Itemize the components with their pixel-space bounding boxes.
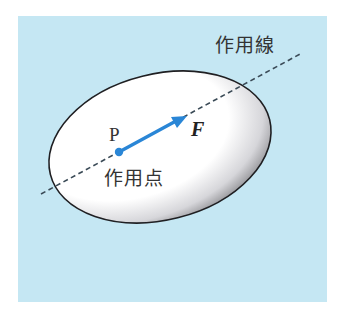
label-point-of-action: 作用点 bbox=[104, 169, 164, 188]
label-line-of-action: 作用線 bbox=[215, 36, 275, 55]
label-point-p: P bbox=[109, 125, 120, 144]
force-diagram bbox=[0, 0, 344, 328]
point-of-application-dot bbox=[115, 148, 123, 156]
label-force-f: F bbox=[191, 119, 204, 139]
